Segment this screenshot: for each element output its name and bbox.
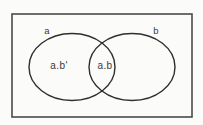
venn-diagram-canvas: a b a.b' a.b xyxy=(0,0,203,125)
set-a-label: a xyxy=(44,25,50,36)
region-label-a-and-b: a.b xyxy=(97,60,112,71)
region-label-a-not-b: a.b' xyxy=(50,60,67,71)
set-b-label: b xyxy=(153,25,158,36)
venn-diagram-svg: a b a.b' a.b xyxy=(0,0,203,125)
